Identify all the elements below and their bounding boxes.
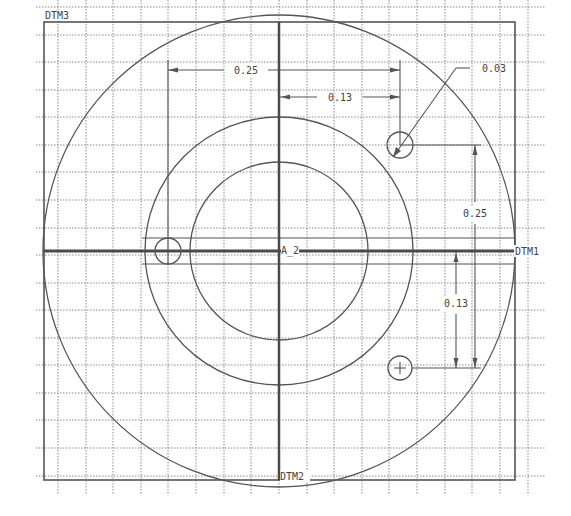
datum-label-dtm1: DTM1 bbox=[515, 246, 539, 257]
dimension-horizontal-0-13[interactable]: 0.13 bbox=[279, 92, 400, 103]
dimension-label: 0.25 bbox=[463, 208, 487, 219]
dimension-label: 0.03 bbox=[482, 63, 506, 74]
datum-label-dtm3: DTM3 bbox=[45, 10, 69, 21]
hole-bottom-right[interactable] bbox=[388, 356, 481, 380]
dimension-horizontal-0-25[interactable]: 0.25 bbox=[168, 63, 400, 77]
dimension-label: 0.13 bbox=[328, 92, 352, 103]
datum-label-dtm2: DTM2 bbox=[280, 471, 304, 482]
hole-left[interactable] bbox=[155, 60, 181, 264]
dimension-vertical-0-25[interactable]: 0.25 bbox=[460, 145, 490, 368]
sketch-canvas[interactable]: 0.25 0.13 0.03 0.25 0.13 DTM3 DTM1 bbox=[0, 0, 571, 516]
dimension-label: 0.25 bbox=[234, 65, 258, 76]
dimension-vertical-0-13[interactable]: 0.13 bbox=[441, 251, 471, 368]
axis-label-a2: A_2 bbox=[281, 245, 299, 257]
dimension-label: 0.13 bbox=[444, 298, 468, 309]
